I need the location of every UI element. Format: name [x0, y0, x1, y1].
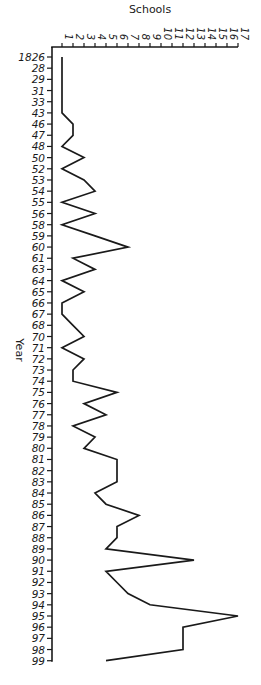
y-tick-label: 99: [32, 655, 46, 667]
schools-series-polyline: [62, 57, 238, 661]
x-tick-label: 7: [129, 34, 140, 41]
x-tick-label: 3: [85, 34, 96, 40]
x-tick-label: 15: [217, 27, 228, 40]
x-tick-label: 11: [173, 27, 184, 40]
x-axis-title: Schools: [129, 3, 172, 16]
x-tick-label: 9: [151, 34, 162, 40]
x-tick-label: 8: [140, 34, 151, 40]
x-tick-label: 2: [74, 34, 85, 40]
series-line: [62, 57, 238, 661]
x-axis-line: [52, 47, 238, 48]
x-tick-label: 5: [107, 34, 118, 40]
x-axis: 1234567891011121314151617: [52, 27, 250, 48]
x-tick-label: 17: [239, 27, 250, 40]
x-tick-label: 13: [195, 27, 206, 40]
x-tick-label: 16: [228, 27, 239, 40]
x-tick-label: 10: [162, 27, 173, 40]
x-tick-label: 12: [184, 27, 195, 40]
x-tick-label: 4: [96, 34, 107, 40]
schools-by-year-chart: 1234567891011121314151617 18262829313343…: [0, 0, 261, 685]
x-tick-label: 6: [118, 34, 129, 40]
x-tick-label: 1: [63, 34, 74, 40]
chart-canvas: 1234567891011121314151617 18262829313343…: [0, 0, 261, 685]
x-tick-label: 14: [206, 27, 217, 40]
y-axis-title: Year: [13, 337, 26, 362]
